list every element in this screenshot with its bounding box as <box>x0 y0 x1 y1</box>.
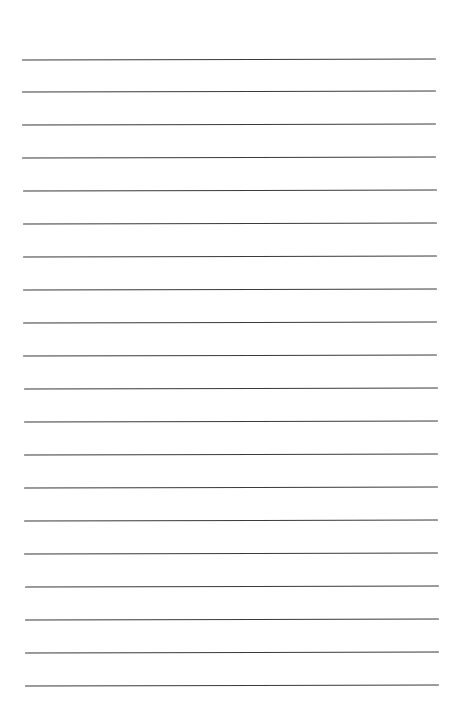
ruled-line <box>25 651 439 653</box>
ruled-line <box>23 256 437 258</box>
ruled-line <box>24 552 438 554</box>
ruled-line <box>23 223 437 225</box>
ruled-line <box>24 387 438 389</box>
ruled-line <box>24 486 438 488</box>
ruled-line <box>23 289 437 291</box>
ruled-line <box>22 91 436 93</box>
lined-paper-page <box>0 0 457 710</box>
ruled-line <box>23 322 437 324</box>
ruled-line <box>22 58 436 60</box>
ruled-line <box>22 124 436 126</box>
ruled-line <box>24 420 438 422</box>
ruled-line <box>25 684 439 686</box>
ruled-line <box>25 618 439 620</box>
ruled-line <box>24 453 438 455</box>
ruled-line <box>24 519 438 521</box>
ruled-line <box>23 190 437 192</box>
ruled-line <box>23 355 437 357</box>
ruled-line <box>25 585 439 587</box>
ruled-line <box>22 157 436 159</box>
